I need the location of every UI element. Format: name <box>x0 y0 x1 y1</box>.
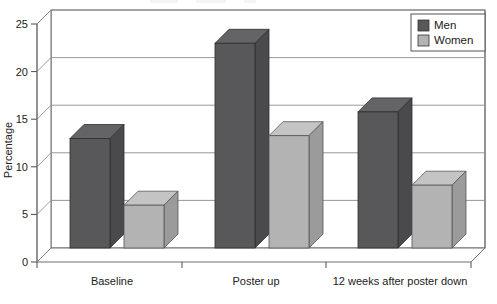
y-tick-10: 10 <box>16 161 28 173</box>
cat-label-baseline: Baseline <box>91 275 133 287</box>
legend-swatch-women <box>418 35 429 46</box>
bar-men-12-weeks[interactable] <box>358 98 412 248</box>
x-axis-category-separators <box>37 262 471 268</box>
legend: Men Women <box>411 14 485 51</box>
legend-label-women: Women <box>434 34 473 46</box>
y-tick-15: 15 <box>16 113 28 125</box>
legend-label-men: Men <box>434 19 456 31</box>
y-tick-5: 5 <box>22 208 28 220</box>
y-tick-25: 25 <box>16 18 28 30</box>
y-axis-label: Percentage <box>2 122 14 178</box>
bar-men-poster-up[interactable] <box>215 29 269 248</box>
bar-men-baseline[interactable] <box>70 125 124 249</box>
bar-women-12-weeks[interactable] <box>412 171 466 248</box>
legend-swatch-men <box>418 20 429 31</box>
bar-chart-3d: 25 20 15 10 5 0 Percentage <box>0 0 497 304</box>
y-axis-tick-labels: 25 20 15 10 5 0 <box>16 18 28 268</box>
bar-women-poster-up[interactable] <box>269 122 323 248</box>
legend-item-women[interactable]: Women <box>418 34 473 46</box>
chart-canvas: 25 20 15 10 5 0 Percentage <box>0 0 497 304</box>
y-tick-20: 20 <box>16 66 28 78</box>
y-axis-ticks <box>31 24 37 262</box>
cat-label-12-weeks: 12 weeks after poster down <box>333 275 468 287</box>
bar-women-baseline[interactable] <box>124 191 178 248</box>
cat-label-poster-up: Poster up <box>232 275 279 287</box>
legend-item-men[interactable]: Men <box>418 19 456 31</box>
cropped-title-artifact <box>150 0 256 3</box>
x-axis-category-labels: Baseline Poster up 12 weeks after poster… <box>91 275 467 287</box>
y-tick-0: 0 <box>22 256 28 268</box>
